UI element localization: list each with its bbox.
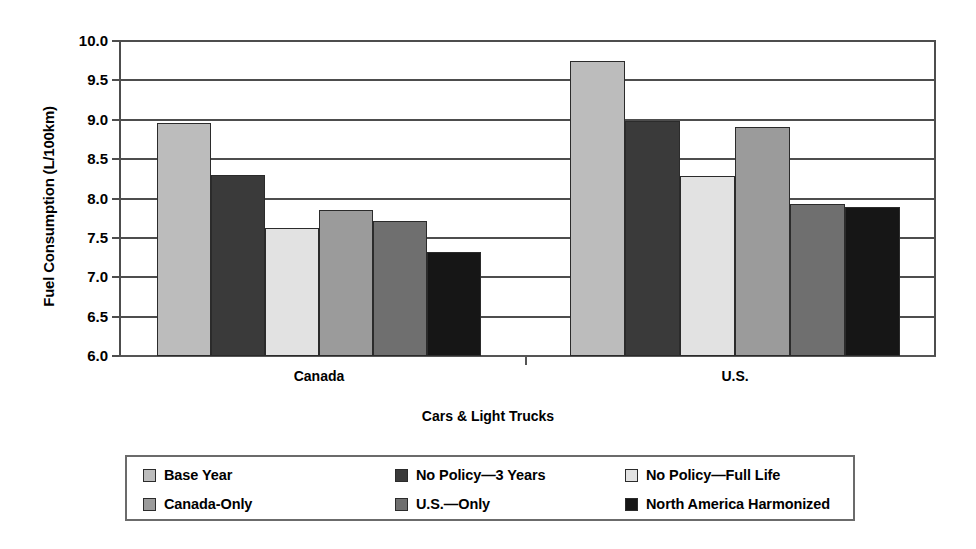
legend-item[interactable]: No Policy—Full Life	[625, 461, 780, 489]
legend-item[interactable]: North America Harmonized	[625, 490, 830, 518]
legend-item[interactable]: No Policy—3 Years	[395, 461, 545, 489]
chart-legend: Base YearNo Policy—3 YearsNo Policy—Full…	[125, 455, 855, 521]
y-axis-tick-marks	[0, 41, 120, 356]
bar	[157, 123, 211, 356]
gridline	[119, 79, 936, 81]
gridline	[119, 40, 936, 42]
legend-swatch-icon	[625, 498, 638, 511]
bar	[625, 121, 680, 356]
y-axis-spine	[119, 41, 121, 356]
legend-label: U.S.—Only	[416, 496, 490, 512]
x-group-label: U.S.	[675, 368, 795, 384]
legend-swatch-icon	[395, 498, 408, 511]
bar	[427, 252, 481, 356]
bar	[845, 207, 900, 356]
bar	[319, 210, 373, 356]
legend-swatch-icon	[143, 498, 156, 511]
legend-swatch-icon	[625, 469, 638, 482]
bar	[373, 221, 427, 356]
legend-row: Base YearNo Policy—3 YearsNo Policy—Full…	[127, 461, 853, 489]
x-group-label: Canada	[259, 368, 379, 384]
legend-label: Base Year	[164, 467, 232, 483]
bar	[570, 61, 625, 356]
bar	[680, 176, 735, 356]
legend-row: Canada-OnlyU.S.—OnlyNorth America Harmon…	[127, 490, 853, 518]
legend-swatch-icon	[395, 469, 408, 482]
legend-label: Canada-Only	[164, 496, 252, 512]
chart-figure: Fuel Consumption (L/100km) 10.09.59.08.5…	[0, 0, 976, 549]
legend-label: No Policy—Full Life	[646, 467, 780, 483]
x-axis-title: Cars & Light Trucks	[0, 408, 976, 424]
right-spine	[934, 41, 936, 356]
x-axis-center-tick	[525, 356, 527, 365]
bar	[211, 175, 265, 356]
legend-label: No Policy—3 Years	[416, 467, 545, 483]
legend-item[interactable]: Base Year	[143, 461, 232, 489]
bar	[790, 204, 845, 356]
legend-label: North America Harmonized	[646, 496, 830, 512]
plot-area	[119, 41, 936, 356]
legend-swatch-icon	[143, 469, 156, 482]
gridline	[119, 119, 936, 121]
legend-item[interactable]: U.S.—Only	[395, 490, 490, 518]
legend-item[interactable]: Canada-Only	[143, 490, 252, 518]
gridline	[119, 158, 936, 160]
bar	[265, 228, 319, 356]
bar	[735, 127, 790, 356]
